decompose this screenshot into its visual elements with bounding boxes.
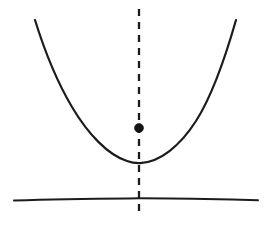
parabola-figure — [0, 0, 272, 225]
focus-point-dot — [135, 124, 144, 133]
parabola-diagram-canvas — [0, 0, 272, 225]
